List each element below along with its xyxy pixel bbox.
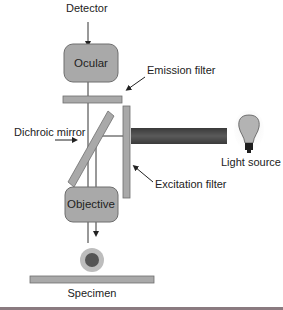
dichroic-mirror <box>68 111 114 187</box>
excitation-filter-pointer <box>135 167 153 182</box>
objective-label: Objective <box>67 198 115 210</box>
emission-filter-pointer <box>128 77 145 89</box>
specimen-label: Specimen <box>68 287 117 299</box>
specimen-slide <box>30 276 154 283</box>
excitation-filter-label: Excitation filter <box>155 178 227 190</box>
detector-label: Detector <box>66 2 108 14</box>
ocular-label: Ocular <box>74 57 108 69</box>
specimen-sample <box>80 248 104 272</box>
light-bulb-icon <box>234 110 264 153</box>
light-beam <box>131 128 227 144</box>
light-source-label: Light source <box>221 156 281 168</box>
objective: Objective <box>65 187 118 222</box>
dichroic-mirror-label: Dichroic mirror <box>14 126 86 138</box>
ocular: Ocular <box>64 44 118 82</box>
fluorescence-microscope-diagram: Detector Ocular Emission filter Dichroic… <box>0 0 283 310</box>
excitation-filter <box>123 106 130 198</box>
emission-filter-label: Emission filter <box>147 64 216 76</box>
emission-filter <box>63 96 122 103</box>
